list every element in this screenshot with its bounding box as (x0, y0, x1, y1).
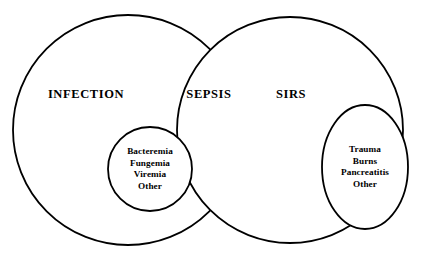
bacteremia-item-2: Viremia (134, 169, 167, 179)
bacteremia-item-1: Fungemia (130, 158, 170, 168)
trauma-item-2: Pancreatitis (341, 167, 389, 177)
venn-diagram-canvas: INFECTION SEPSIS SIRS Bacteremia Fungemi… (0, 0, 422, 258)
trauma-item-3: Other (353, 179, 377, 189)
infection-label: INFECTION (48, 87, 124, 101)
sirs-label: SIRS (276, 87, 306, 101)
bacteremia-item-0: Bacteremia (127, 146, 173, 156)
trauma-item-0: Trauma (349, 144, 381, 154)
venn-diagram: INFECTION SEPSIS SIRS Bacteremia Fungemi… (0, 0, 422, 258)
sepsis-label: SEPSIS (186, 87, 231, 101)
trauma-item-1: Burns (353, 156, 378, 166)
bacteremia-item-3: Other (138, 181, 162, 191)
